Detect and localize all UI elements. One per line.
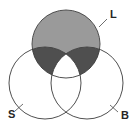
- venn-diagram: L S B: [0, 0, 132, 129]
- set-label-s: S: [8, 108, 15, 120]
- set-label-l: L: [110, 8, 117, 20]
- venn-diagram-canvas: L S B: [0, 0, 132, 129]
- set-label-b: B: [121, 109, 129, 121]
